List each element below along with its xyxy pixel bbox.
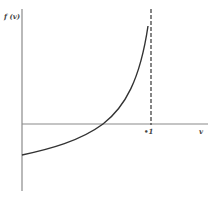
- y-axis-label: f (v): [3, 12, 20, 21]
- curve-f-of-v: [22, 26, 148, 155]
- x-axis-label: v: [199, 127, 204, 136]
- x-tick-label-one: •1: [144, 127, 153, 136]
- chart: f (v) •1 v: [0, 0, 214, 199]
